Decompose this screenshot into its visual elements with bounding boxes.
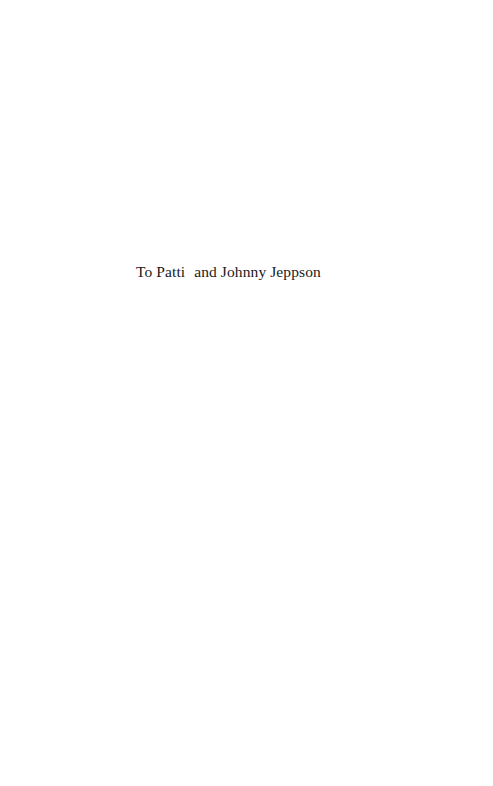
dedication-recipient-1: To Patti [136,263,185,280]
book-page: To Patti and Johnny Jeppson [0,0,493,786]
dedication-text: To Patti and Johnny Jeppson [136,262,321,282]
dedication-recipient-2: and Johnny Jeppson [194,263,321,280]
